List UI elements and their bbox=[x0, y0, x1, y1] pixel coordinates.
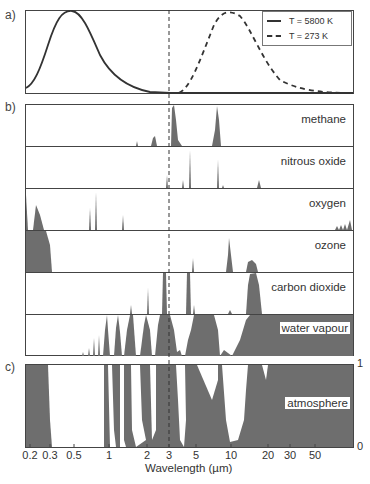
x-tick-label: 10 bbox=[225, 449, 237, 461]
gas-label-nitrous-oxide: nitrous oxide bbox=[279, 155, 348, 167]
x-tick-label: 0.5 bbox=[66, 449, 81, 461]
panel-label-b: b) bbox=[5, 100, 16, 114]
gas-label-carbon-dioxide: carbon dioxide bbox=[269, 281, 348, 293]
x-tick-label: 20 bbox=[262, 449, 274, 461]
x-axis-label: Wavelength (µm) bbox=[145, 462, 232, 474]
legend-label: T = 273 K bbox=[289, 31, 328, 41]
x-tick-label: 2 bbox=[144, 449, 150, 461]
panel-label-c: c) bbox=[5, 360, 15, 374]
x-tick-label: 0.2 bbox=[22, 449, 37, 461]
solid-line-swatch bbox=[267, 20, 281, 22]
y-tick-bottom: 0 bbox=[357, 440, 363, 452]
gas-label-oxygen: oxygen bbox=[307, 197, 348, 209]
gas-label-methane: methane bbox=[299, 113, 348, 125]
y-tick-top: 1 bbox=[357, 357, 363, 369]
gas-label-ozone: ozone bbox=[313, 239, 348, 251]
x-tick-label: 30 bbox=[284, 449, 296, 461]
panel-label-a: a) bbox=[5, 8, 16, 22]
legend: T = 5800 K T = 273 K bbox=[262, 11, 352, 46]
x-tick-label: 0.3 bbox=[42, 449, 57, 461]
x-tick-label: 1 bbox=[106, 449, 112, 461]
legend-label: T = 5800 K bbox=[289, 16, 333, 26]
legend-item-earth: T = 273 K bbox=[267, 29, 328, 43]
x-tick-label: 5 bbox=[193, 449, 199, 461]
atmosphere-label: atmosphere bbox=[285, 397, 350, 409]
dashed-line-swatch bbox=[267, 35, 281, 37]
x-tick-label: 50 bbox=[309, 449, 321, 461]
legend-item-sun: T = 5800 K bbox=[267, 14, 333, 28]
x-tick-label: 3 bbox=[166, 449, 172, 461]
gas-label-water-vapour: water vapour bbox=[280, 322, 350, 334]
